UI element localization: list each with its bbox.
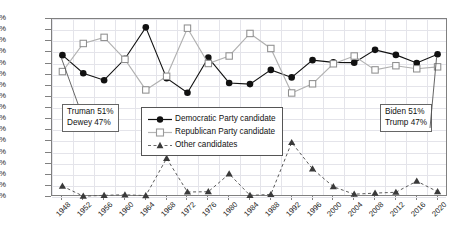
- open-square-solid-line-icon: [147, 125, 173, 138]
- data-point[interactable]: [226, 170, 233, 176]
- data-point[interactable]: [163, 73, 169, 79]
- y-axis-tick-label: 8%: [0, 170, 6, 178]
- data-point[interactable]: [351, 59, 358, 66]
- y-axis-tick-label: 48%: [0, 59, 6, 67]
- y-axis-tick-label: 52%: [0, 47, 6, 55]
- data-point[interactable]: [434, 188, 441, 194]
- data-point[interactable]: [121, 191, 128, 197]
- data-point[interactable]: [184, 89, 191, 96]
- y-axis-tick-label: 60%: [0, 25, 6, 33]
- legend-label: Other candidates: [173, 140, 237, 149]
- legend-label: Democratic Party candidate: [173, 114, 276, 123]
- data-point[interactable]: [122, 56, 128, 62]
- data-point[interactable]: [247, 81, 254, 88]
- data-point[interactable]: [59, 52, 66, 59]
- legend-item-other[interactable]: Other candidates: [147, 138, 276, 151]
- data-point[interactable]: [59, 68, 65, 74]
- legend: Democratic Party candidate Republican Pa…: [141, 107, 283, 156]
- y-axis-tick-label: 24%: [0, 125, 6, 133]
- data-point[interactable]: [330, 61, 336, 67]
- data-point[interactable]: [372, 67, 378, 73]
- data-point[interactable]: [371, 190, 378, 196]
- data-point[interactable]: [288, 90, 294, 96]
- y-axis-tick-label: 12%: [0, 159, 6, 167]
- data-point[interactable]: [309, 57, 316, 64]
- data-point[interactable]: [101, 34, 107, 40]
- filled-circle-solid-line-icon: [147, 112, 173, 125]
- annotation-line: Truman 51%: [67, 107, 114, 118]
- data-point[interactable]: [351, 53, 357, 59]
- data-point[interactable]: [142, 192, 149, 198]
- data-point[interactable]: [205, 60, 211, 66]
- y-axis-tick-label: 40%: [0, 81, 6, 89]
- data-point[interactable]: [142, 24, 149, 31]
- data-point[interactable]: [59, 183, 66, 189]
- data-point[interactable]: [80, 193, 87, 199]
- y-axis-tick-label: 64%: [0, 14, 6, 22]
- data-point[interactable]: [413, 178, 420, 184]
- data-point[interactable]: [80, 70, 87, 77]
- y-axis-tick-label: 28%: [0, 114, 6, 122]
- chart-container: Share of votes (%) 0%4%8%12%16%20%24%28%…: [0, 0, 464, 252]
- data-point[interactable]: [80, 40, 86, 46]
- y-axis-tick-label: 36%: [0, 92, 6, 100]
- annotation-1948: Truman 51% Dewey 47%: [62, 104, 119, 132]
- data-point[interactable]: [268, 67, 275, 74]
- y-axis-tick-mark: [45, 196, 51, 197]
- data-point[interactable]: [372, 47, 379, 54]
- data-point[interactable]: [184, 25, 190, 31]
- y-axis-tick-label: 56%: [0, 36, 6, 44]
- annotation-line: Biden 51%: [385, 107, 427, 118]
- data-point[interactable]: [247, 30, 253, 36]
- data-point[interactable]: [288, 74, 295, 81]
- data-point[interactable]: [226, 53, 232, 59]
- data-point[interactable]: [309, 81, 315, 87]
- y-axis-tick-label: 44%: [0, 70, 6, 78]
- annotation-2020: Biden 51% Trump 47%: [380, 104, 432, 132]
- data-point[interactable]: [434, 51, 441, 58]
- data-point[interactable]: [268, 45, 274, 51]
- data-point[interactable]: [330, 183, 337, 189]
- annotation-line: Dewey 47%: [67, 118, 114, 129]
- y-axis-tick-label: 20%: [0, 136, 6, 144]
- data-point[interactable]: [288, 139, 295, 145]
- data-point[interactable]: [434, 64, 440, 70]
- legend-item-democratic[interactable]: Democratic Party candidate: [147, 112, 276, 125]
- annotation-line: Trump 47%: [385, 118, 427, 129]
- y-axis-tick-label: 16%: [0, 148, 6, 156]
- filled-triangle-dashed-line-icon: [147, 138, 173, 151]
- data-point[interactable]: [101, 77, 108, 84]
- y-axis-tick-label: 4%: [0, 181, 6, 189]
- data-point[interactable]: [414, 66, 420, 72]
- data-point[interactable]: [143, 87, 149, 93]
- y-axis-tick-label: 32%: [0, 103, 6, 111]
- data-point[interactable]: [393, 63, 399, 69]
- legend-label: Republican Party candidate: [173, 127, 275, 136]
- data-point[interactable]: [393, 52, 400, 59]
- legend-item-republican[interactable]: Republican Party candidate: [147, 125, 276, 138]
- data-point[interactable]: [226, 80, 233, 87]
- data-point[interactable]: [267, 191, 274, 197]
- y-axis-tick-label: 0%: [0, 192, 6, 200]
- data-point[interactable]: [392, 189, 399, 195]
